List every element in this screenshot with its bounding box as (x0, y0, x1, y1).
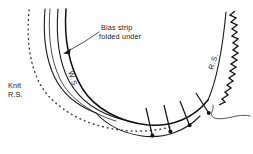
pin-shaft (164, 105, 170, 130)
bias-callout-line1: Bias strip (101, 23, 133, 32)
straight-pin (196, 93, 211, 115)
sewing-diagram-figure: Bias strip folded under Knit R.S. W.S. R… (0, 0, 253, 154)
pin-head (150, 133, 154, 137)
straight-pin (164, 105, 172, 133)
pin-head (168, 129, 172, 133)
diagram-canvas: Bias strip folded under Knit R.S. W.S. R… (0, 0, 253, 154)
bias-callout-arrowhead (63, 48, 70, 54)
bias-callout-line2: folded under (99, 32, 142, 41)
pin-head (188, 123, 192, 127)
knit-rs-line2: R.S. (8, 90, 23, 99)
straight-pin (146, 108, 154, 137)
zigzag-stitch-edge-path (219, 11, 238, 105)
straight-pin (180, 101, 192, 127)
knit-rs-line1: Knit (8, 81, 21, 90)
pin-head (207, 111, 211, 115)
bias-callout-leader-line (68, 32, 99, 51)
thread-tail-path (211, 105, 250, 119)
pin-shaft (146, 108, 152, 134)
